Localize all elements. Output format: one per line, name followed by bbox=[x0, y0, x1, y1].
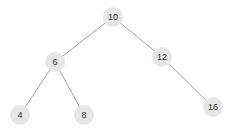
tree-node-12: 12 bbox=[152, 47, 172, 67]
tree-node-10: 10 bbox=[103, 7, 123, 27]
tree-node-8: 8 bbox=[74, 105, 94, 125]
tree-node-4: 4 bbox=[10, 105, 30, 125]
tree-node-6: 6 bbox=[45, 52, 65, 72]
tree-node-16: 16 bbox=[203, 97, 223, 117]
edge-10-6 bbox=[55, 17, 113, 62]
